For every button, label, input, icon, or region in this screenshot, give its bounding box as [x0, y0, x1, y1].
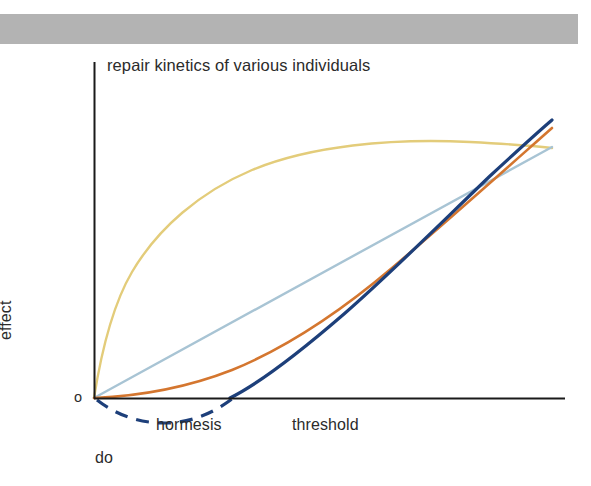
hormesis-annotation-label: hormesis: [156, 417, 222, 433]
threshold-annotation-label: threshold: [292, 417, 359, 433]
series-supralinear-curve: [94, 128, 552, 398]
y-axis-label: effect: [0, 301, 14, 340]
x-axis-label: do: [95, 450, 113, 466]
origin-label: o: [74, 390, 82, 405]
figure-root: repair kinetics of various individuals e…: [0, 0, 591, 486]
chart-title: repair kinetics of various individuals: [107, 57, 370, 74]
